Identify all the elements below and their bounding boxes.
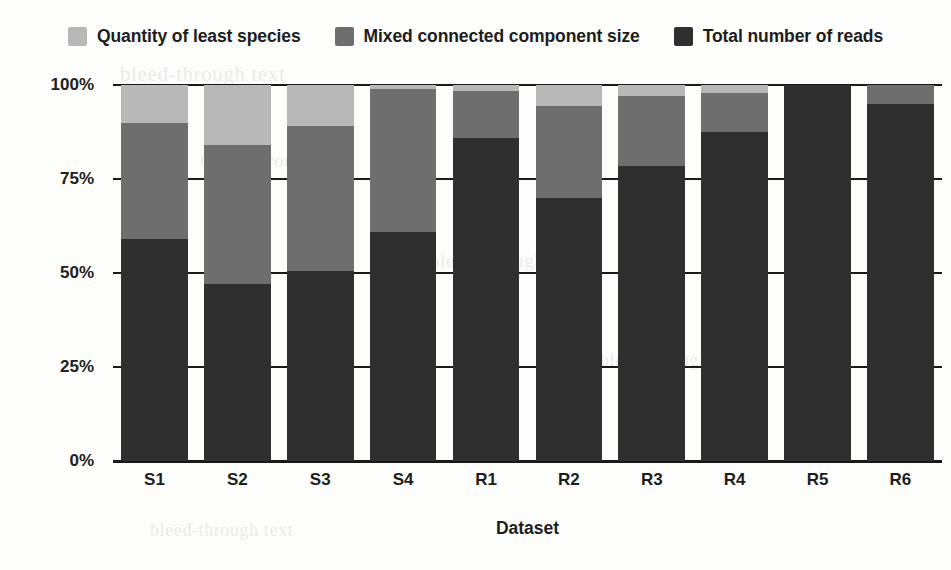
bar-column[interactable] xyxy=(287,85,354,461)
x-axis-tick-label: R6 xyxy=(867,470,934,490)
bar-segment[interactable] xyxy=(121,123,188,240)
bar-segment[interactable] xyxy=(701,132,768,461)
bar-segment[interactable] xyxy=(287,85,354,126)
x-axis-tick-label: R1 xyxy=(453,470,520,490)
bar-segment[interactable] xyxy=(618,85,685,96)
bar-column[interactable] xyxy=(618,85,685,461)
plot-area xyxy=(113,85,942,461)
bar-segment[interactable] xyxy=(784,85,851,461)
bar-segment[interactable] xyxy=(287,126,354,271)
bar-segment[interactable] xyxy=(204,284,271,461)
x-axis-tick-label: R3 xyxy=(618,470,685,490)
x-axis-labels: S1S2S3S4R1R2R3R4R5R6 xyxy=(113,470,942,490)
y-axis-labels: 100%75%50%25%0% xyxy=(30,85,94,461)
bar-segment[interactable] xyxy=(121,85,188,123)
bar-segment[interactable] xyxy=(287,271,354,461)
y-axis-tick-label: 0% xyxy=(69,451,94,471)
x-axis-tick-label: R2 xyxy=(536,470,603,490)
bar-segment[interactable] xyxy=(618,166,685,461)
x-axis-line xyxy=(113,461,942,463)
bar-column[interactable] xyxy=(867,85,934,461)
bar-segment[interactable] xyxy=(536,106,603,198)
bar-segment[interactable] xyxy=(867,85,934,104)
bar-segment[interactable] xyxy=(701,85,768,93)
x-axis-tick-label: S4 xyxy=(370,470,437,490)
bar-segment[interactable] xyxy=(536,85,603,106)
bar-column[interactable] xyxy=(701,85,768,461)
chart-plot-wrapper: 100%75%50%25%0% S1S2S3S4R1R2R3R4R5R6 Dat… xyxy=(0,0,951,570)
y-axis-tick-label: 50% xyxy=(60,263,94,283)
bar-group xyxy=(113,85,942,461)
y-axis-tick-label: 100% xyxy=(51,75,94,95)
chart-page: bleed-through text bleed-through text bl… xyxy=(0,0,951,570)
bar-column[interactable] xyxy=(536,85,603,461)
x-axis-tick-label: R4 xyxy=(701,470,768,490)
bar-segment[interactable] xyxy=(453,138,520,461)
bar-segment[interactable] xyxy=(867,104,934,461)
bar-column[interactable] xyxy=(370,85,437,461)
x-axis-title: Dataset xyxy=(113,518,942,539)
bar-column[interactable] xyxy=(204,85,271,461)
x-axis-tick-label: S1 xyxy=(121,470,188,490)
bar-segment[interactable] xyxy=(536,198,603,461)
bar-column[interactable] xyxy=(121,85,188,461)
x-axis-tick-label: S3 xyxy=(287,470,354,490)
bar-segment[interactable] xyxy=(701,93,768,132)
bar-segment[interactable] xyxy=(453,91,520,138)
x-axis-tick-label: R5 xyxy=(784,470,851,490)
bar-segment[interactable] xyxy=(204,85,271,145)
bar-column[interactable] xyxy=(453,85,520,461)
bar-segment[interactable] xyxy=(204,145,271,284)
bar-segment[interactable] xyxy=(618,96,685,166)
bar-segment[interactable] xyxy=(121,239,188,461)
y-axis-tick-label: 75% xyxy=(60,169,94,189)
x-axis-tick-label: S2 xyxy=(204,470,271,490)
bar-segment[interactable] xyxy=(370,232,437,461)
bar-column[interactable] xyxy=(784,85,851,461)
bar-segment[interactable] xyxy=(370,89,437,232)
y-axis-tick-label: 25% xyxy=(60,357,94,377)
